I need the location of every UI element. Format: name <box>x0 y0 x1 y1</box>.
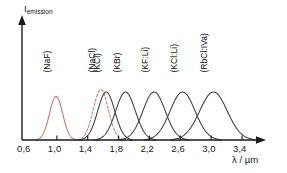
curve-compound-label-0: (NaF) <box>43 51 52 73</box>
curve-5 <box>144 92 221 140</box>
x-tick-label-0: 0,6 <box>17 143 31 154</box>
x-axis-arrowhead <box>256 136 266 144</box>
curve-6 <box>171 92 256 140</box>
x-tick-label-7: 3,4 <box>233 143 247 154</box>
axes-group <box>18 15 266 144</box>
curve-symbol-label-6 <box>200 95 210 98</box>
x-tick-label-4: 2,2 <box>140 143 154 154</box>
curve-compound-label-3: (KBr) <box>113 53 122 73</box>
curve-compound-label-2: (KCl) <box>94 53 103 73</box>
curve-compound-label-6: (RbCl:IVa) <box>201 33 210 72</box>
curve-3 <box>95 92 156 140</box>
curve-compound-label-4: (KF:Li) <box>141 47 150 73</box>
emission-spectra-chart: Iemission λ / µm 0,61,01,41,82,22,63,03,… <box>0 0 287 173</box>
x-tick-label-1: 1,0 <box>48 143 62 154</box>
x-tick-label-5: 2,6 <box>171 143 185 154</box>
curve-symbol-label-4 <box>140 95 150 98</box>
curve-compound-label-5: (KCl:Li) <box>170 44 179 73</box>
y-axis-arrowhead <box>18 15 26 25</box>
x-axis-label: λ / µm <box>232 154 258 165</box>
y-axis-label: Iemission <box>24 3 53 15</box>
y-axis-label-subscript: emission <box>27 8 53 15</box>
curve-symbol-label-5 <box>169 95 179 98</box>
x-tick-label-6: 3,0 <box>202 143 216 154</box>
x-tick-label-2: 1,4 <box>79 143 93 154</box>
curve-0 <box>36 96 77 140</box>
curve-1 <box>77 90 124 140</box>
x-tick-label-3: 1,8 <box>110 143 124 154</box>
curve-4 <box>120 92 189 140</box>
